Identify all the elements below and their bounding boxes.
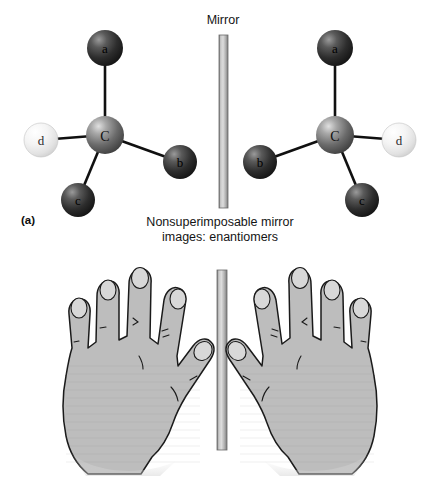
enantiomer-caption: Nonsuperimposable mirror images: enantio… [110, 215, 330, 245]
atom-label-carbon-right: C [330, 129, 339, 144]
molecule-diagram: d c b a [0, 0, 440, 248]
atom-label-c-sub-left: c [75, 193, 81, 208]
atom-label-d-left: d [38, 133, 45, 148]
hands-diagram [0, 248, 440, 492]
mirror-plate-b [217, 270, 227, 450]
mirror-plate-a [219, 35, 228, 208]
molecule-right: d c b a C [243, 30, 416, 217]
atom-b-right: b [243, 145, 277, 179]
atom-d-right: d [382, 123, 416, 157]
atom-label-a-left: a [102, 41, 108, 56]
atom-a-right: a [317, 30, 353, 66]
left-hand [63, 268, 216, 477]
figure-enantiomers: d c b a [0, 0, 440, 492]
atom-b-left: b [163, 145, 197, 179]
atom-carbon-right: C [316, 116, 354, 154]
panel-b-hands: Mirror (b) [0, 248, 440, 492]
molecule-left: d c b a [24, 30, 197, 217]
atom-label-b-right: b [257, 155, 264, 170]
atom-label-b-left: b [177, 155, 184, 170]
right-hand [224, 268, 377, 477]
caption-line-1: Nonsuperimposable mirror [110, 215, 330, 230]
atom-label-d-right: d [396, 133, 403, 148]
panel-a-tag: (a) [21, 214, 35, 226]
panel-a-molecules: d c b a [0, 0, 440, 248]
mirror-label-top: Mirror [181, 13, 265, 27]
atom-label-a-right: a [332, 41, 338, 56]
atom-d-left: d [24, 123, 58, 157]
atom-label-carbon-left: C [100, 129, 109, 144]
atom-carbon-left: C [86, 116, 124, 154]
atom-a-left: a [87, 30, 123, 66]
atom-label-c-sub-right: c [359, 193, 365, 208]
atom-c-sub-right: c [345, 183, 379, 217]
atom-c-sub-left: c [61, 183, 95, 217]
caption-line-2: images: enantiomers [110, 230, 330, 245]
